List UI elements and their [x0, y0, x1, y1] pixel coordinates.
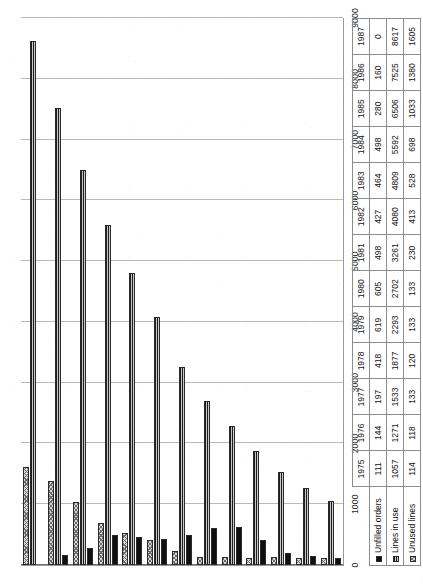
bar-group-1984 — [98, 18, 118, 565]
bar-group-1983 — [122, 18, 142, 565]
bar-s1-1976 — [303, 488, 309, 565]
bar-s1-1977 — [278, 472, 284, 565]
table-cell-s1-1978: 1877 — [387, 343, 404, 379]
table-cell-s1-1977: 1533 — [387, 379, 404, 415]
bar-group-1979 — [222, 18, 242, 565]
table-cell-s0-1976: 144 — [370, 415, 387, 451]
bar-s0-1986 — [62, 555, 68, 565]
bar-s0-1983 — [136, 537, 142, 565]
bar-s0-1976 — [310, 556, 316, 565]
table-col-header-1982: 1982 — [353, 199, 370, 235]
bar-s2-1985 — [73, 502, 79, 565]
table-col-header-1976: 1976 — [353, 415, 370, 451]
table-cell-s2-1983: 528 — [404, 163, 421, 199]
bar-s0-1979 — [236, 527, 242, 565]
table-cell-s0-1987: 0 — [370, 19, 387, 55]
table-cell-s2-1981: 230 — [404, 235, 421, 271]
bar-group-1981 — [172, 18, 192, 565]
table-col-header-1986: 1986 — [353, 55, 370, 91]
legend-swatch-icon-s1 — [393, 556, 399, 562]
table-cell-s0-1980: 605 — [370, 271, 387, 307]
table-cell-s2-1978: 120 — [404, 343, 421, 379]
legend-item-s0: Unfilled orders — [370, 487, 387, 566]
table-cell-s1-1980: 2702 — [387, 271, 404, 307]
table-cell-s1-1981: 3261 — [387, 235, 404, 271]
bar-group-1982 — [147, 18, 167, 565]
table-col-header-1985: 1985 — [353, 91, 370, 127]
bar-s1-1980 — [204, 401, 210, 565]
table-col-header-1983: 1983 — [353, 163, 370, 199]
table-cell-s0-1983: 464 — [370, 163, 387, 199]
legend-label: Lines in use — [390, 508, 400, 553]
table-cell-s1-1983: 4809 — [387, 163, 404, 199]
bar-s2-1976 — [296, 558, 302, 565]
table-header-row: 1975197619771978197919801981198219831984… — [353, 19, 370, 566]
bar-s2-1987 — [23, 467, 29, 565]
table-cell-s0-1982: 427 — [370, 199, 387, 235]
bar-s1-1986 — [55, 108, 61, 565]
table-cell-s0-1979: 619 — [370, 307, 387, 343]
table-row: Unfilled orders1111441974186196054984274… — [370, 19, 387, 566]
table-cell-s0-1984: 498 — [370, 127, 387, 163]
chart-data-table: 1975197619771978197919801981198219831984… — [352, 18, 421, 566]
table-cell-s2-1976: 118 — [404, 415, 421, 451]
bar-s0-1980 — [211, 528, 217, 565]
rotated-figure-wrapper: 0100020003000400050006000700080009000 19… — [0, 0, 423, 584]
table-body: Unfilled orders1111441974186196054984274… — [370, 19, 421, 566]
bar-s1-1985 — [80, 170, 86, 565]
table-cell-s2-1979: 133 — [404, 307, 421, 343]
table-cell-s1-1982: 4080 — [387, 199, 404, 235]
table-row: Lines in use1057127115331877229327023261… — [387, 19, 404, 566]
bar-s2-1975 — [321, 558, 327, 565]
table-cell-s1-1985: 6506 — [387, 91, 404, 127]
table-cell-s2-1985: 1033 — [404, 91, 421, 127]
table-cell-s1-1975: 1057 — [387, 451, 404, 487]
bar-s2-1979 — [222, 557, 228, 565]
bar-s2-1984 — [98, 523, 104, 565]
table-cell-s2-1986: 1380 — [404, 55, 421, 91]
bar-group-1986 — [48, 18, 68, 565]
bar-group-1985 — [73, 18, 93, 565]
bar-chart-figure: 0100020003000400050006000700080009000 19… — [0, 0, 423, 584]
table-corner-cell — [353, 487, 370, 566]
table-col-header-1978: 1978 — [353, 343, 370, 379]
table-cell-s1-1986: 7525 — [387, 55, 404, 91]
bar-s0-1981 — [186, 535, 192, 565]
bar-group-1975 — [321, 18, 341, 565]
bar-group-1977 — [271, 18, 291, 565]
table-col-header-1979: 1979 — [353, 307, 370, 343]
table-cell-s2-1975: 114 — [404, 451, 421, 487]
table-cell-s1-1976: 1271 — [387, 415, 404, 451]
table-col-header-1987: 1987 — [353, 19, 370, 55]
bar-s0-1978 — [260, 540, 266, 565]
bar-s1-1987 — [30, 41, 36, 565]
plot-area: 0100020003000400050006000700080009000 — [21, 18, 344, 566]
table-cell-s1-1984: 5592 — [387, 127, 404, 163]
bar-s0-1975 — [335, 558, 341, 565]
bar-s1-1983 — [129, 273, 135, 565]
table-col-header-1977: 1977 — [353, 379, 370, 415]
table-cell-s0-1978: 418 — [370, 343, 387, 379]
table-cell-s0-1985: 280 — [370, 91, 387, 127]
bar-s1-1981 — [179, 367, 185, 565]
table-col-header-1980: 1980 — [353, 271, 370, 307]
table-cell-s2-1977: 133 — [404, 379, 421, 415]
legend-swatch-icon-s0 — [376, 556, 382, 562]
legend-swatch-icon-s2 — [410, 556, 416, 562]
table-cell-s2-1987: 1605 — [404, 19, 421, 55]
table-cell-s2-1984: 698 — [404, 127, 421, 163]
table-cell-s0-1981: 498 — [370, 235, 387, 271]
bar-group-1976 — [296, 18, 316, 565]
bar-s2-1980 — [197, 557, 203, 565]
table-col-header-1981: 1981 — [353, 235, 370, 271]
table-cell-s0-1975: 111 — [370, 451, 387, 487]
table-cell-s2-1980: 133 — [404, 271, 421, 307]
table-cell-s0-1977: 197 — [370, 379, 387, 415]
bar-s2-1978 — [246, 558, 252, 565]
legend-label: Unused lines — [407, 504, 417, 553]
bar-group-1980 — [197, 18, 217, 565]
table-cell-s1-1979: 2293 — [387, 307, 404, 343]
bar-s0-1982 — [161, 539, 167, 565]
table-cell-s2-1982: 413 — [404, 199, 421, 235]
table-cell-s0-1986: 160 — [370, 55, 387, 91]
